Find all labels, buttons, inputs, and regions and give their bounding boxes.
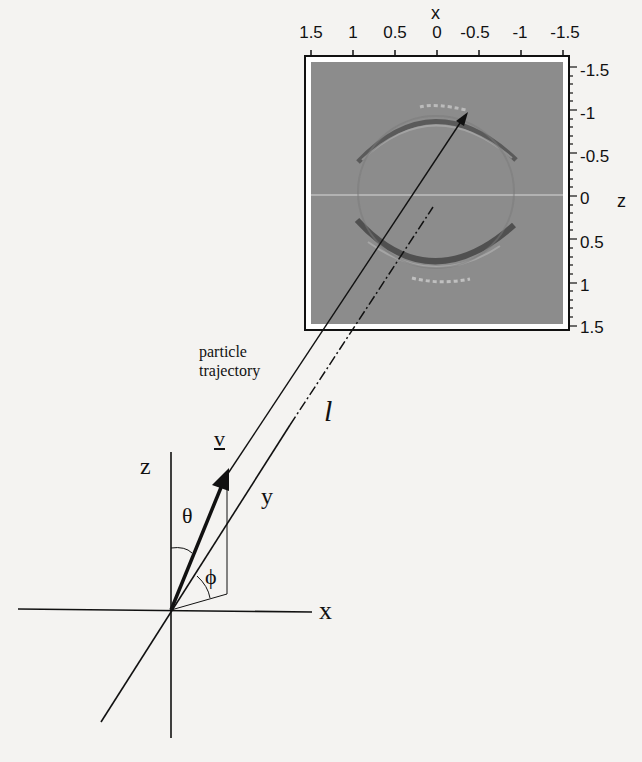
y-axis-line <box>101 425 290 722</box>
coordinate-axes <box>18 425 312 738</box>
x-tick: -1.5 <box>550 24 579 41</box>
trajectory-label: particle <box>199 344 247 360</box>
trajectory-label: trajectory <box>199 363 260 379</box>
z-tick: 0 <box>580 190 589 207</box>
z-tick: 1 <box>580 277 589 294</box>
x-tick: -1 <box>512 24 527 41</box>
x-tick: 1 <box>348 24 357 41</box>
distance-label: l <box>324 396 332 426</box>
z-tick: -0.5 <box>580 148 609 165</box>
z-tick: 0.5 <box>580 234 604 251</box>
z-axis-ticks <box>569 67 577 326</box>
z-tick: -1 <box>580 105 595 122</box>
y-axis-label: y <box>261 484 273 508</box>
z-axis-title: z <box>617 192 626 210</box>
x-tick: 1.5 <box>299 24 323 41</box>
x-tick: -0.5 <box>460 24 489 41</box>
x-axis-label: x <box>319 598 332 624</box>
x-axis-line <box>18 609 312 612</box>
phi-label: ϕ <box>205 566 217 588</box>
projection-base <box>171 594 227 610</box>
x-axis-title: x <box>431 4 440 22</box>
diagram-canvas <box>0 0 642 762</box>
velocity-vector <box>171 468 229 610</box>
theta-label: θ <box>182 505 193 527</box>
z-axis-label: z <box>140 454 151 478</box>
image-plot <box>305 50 577 330</box>
x-tick: 0 <box>432 24 441 41</box>
velocity-label: v <box>214 428 225 450</box>
z-tick: 1.5 <box>580 319 604 336</box>
x-tick: 0.5 <box>383 24 407 41</box>
z-tick: -1.5 <box>580 62 609 79</box>
